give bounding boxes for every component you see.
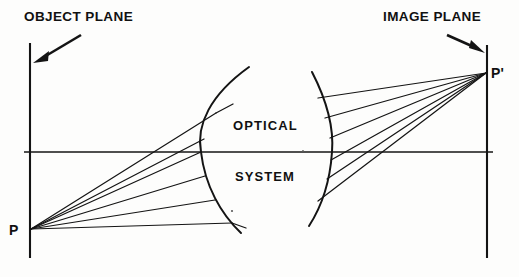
outgoing-ray-6 (318, 73, 486, 201)
image-plane-pointer (447, 35, 485, 53)
object-plane-label: OBJECT PLANE (24, 9, 133, 24)
outgoing-ray-2 (325, 73, 486, 118)
image-plane-label: IMAGE PLANE (383, 9, 481, 24)
join-left-upper (216, 104, 233, 113)
outgoing-ray-4 (331, 73, 486, 160)
optics-diagram: OBJECT PLANE IMAGE PLANE OPTICAL SYSTEM … (0, 0, 519, 277)
incoming-ray-3 (31, 152, 201, 229)
scan-speck-center (302, 150, 304, 152)
object-plane-arrow-head-icon (33, 51, 49, 63)
image-plane-arrow-head-icon (469, 40, 485, 53)
outgoing-ray-bundle (318, 73, 486, 201)
optical-label: OPTICAL (233, 118, 298, 133)
optics-ray-diagram-canvas: OBJECT PLANE IMAGE PLANE OPTICAL SYSTEM … (0, 0, 519, 277)
incoming-ray-1 (31, 113, 216, 229)
left-lens-surface-arc (200, 67, 249, 233)
object-plane-arrow-shaft (44, 35, 81, 57)
outgoing-ray-1 (318, 73, 486, 98)
image-point-label: P' (491, 65, 504, 81)
system-label: SYSTEM (235, 169, 295, 184)
right-lens-surface-arc (309, 72, 332, 226)
outgoing-ray-5 (327, 73, 486, 179)
object-plane-pointer (33, 35, 81, 63)
outgoing-ray-3 (330, 73, 486, 138)
scan-speck-left (231, 210, 233, 212)
object-point-label: P (9, 222, 19, 238)
